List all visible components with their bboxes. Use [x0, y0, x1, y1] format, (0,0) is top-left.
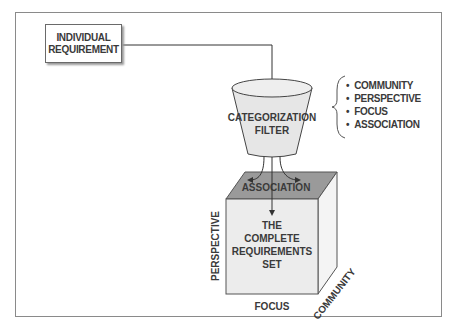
criteria-item: PERSPECTIVE — [346, 92, 421, 105]
criteria-item: COMMUNITY — [346, 79, 421, 92]
axis-perspective: PERSPECTIVE — [210, 211, 221, 281]
criteria-item: ASSOCIATION — [346, 118, 421, 131]
criteria-item: FOCUS — [346, 105, 421, 118]
svg-text:THE: THE — [262, 220, 282, 231]
svg-text:COMPLETE: COMPLETE — [244, 233, 300, 244]
svg-text:SET: SET — [262, 259, 281, 270]
brace-icon — [332, 76, 345, 138]
svg-text:CATEGORIZATION: CATEGORIZATION — [228, 112, 317, 123]
svg-text:FILTER: FILTER — [255, 125, 290, 136]
categorization-filter: CATEGORIZATION FILTER — [228, 79, 317, 157]
individual-requirement-box: INDIVIDUAL REQUIREMENT — [45, 24, 122, 63]
requirements-cube: ASSOCIATION THE COMPLETE REQUIREMENTS SE… — [226, 172, 337, 294]
svg-text:REQUIREMENTS: REQUIREMENTS — [232, 246, 313, 257]
connector-arrow — [122, 45, 272, 83]
svg-text:ASSOCIATION: ASSOCIATION — [242, 182, 311, 193]
axis-focus: FOCUS — [255, 301, 290, 312]
criteria-list: COMMUNITY PERSPECTIVE FOCUS ASSOCIATION — [346, 79, 421, 131]
